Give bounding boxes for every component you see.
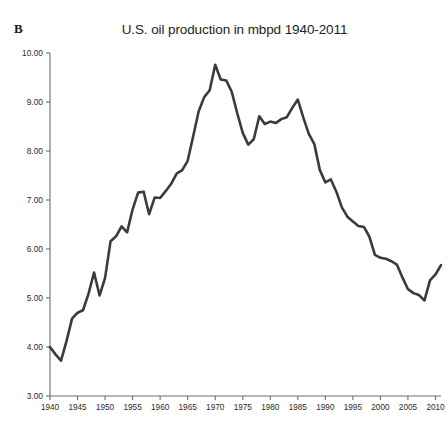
y-tick-label: 3.00: [27, 391, 44, 401]
oil-production-series: [50, 65, 441, 361]
y-axis: 3.004.005.006.007.008.009.0010.00: [22, 48, 50, 401]
line-chart-plot: 3.004.005.006.007.008.009.0010.00 194019…: [0, 0, 447, 433]
x-tick-label: 1950: [96, 403, 115, 412]
figure-panel-b: B U.S. oil production in mbpd 1940-2011 …: [0, 0, 447, 433]
x-tick-label: 1980: [261, 403, 280, 412]
x-tick-label: 2000: [371, 403, 390, 412]
y-tick-label: 6.00: [27, 244, 44, 254]
y-tick-label: 10.00: [22, 48, 43, 58]
y-tick-label: 4.00: [27, 342, 44, 352]
x-tick-label: 2010: [426, 403, 445, 412]
x-tick-label: 1955: [123, 403, 142, 412]
x-tick-label: 1970: [206, 403, 225, 412]
x-tick-label: 1995: [344, 403, 363, 412]
x-tick-label: 1965: [179, 403, 198, 412]
x-tick-label: 2005: [399, 403, 418, 412]
y-tick-label: 9.00: [27, 97, 44, 107]
x-tick-label: 1960: [151, 403, 170, 412]
x-tick-label: 1940: [41, 403, 60, 412]
x-tick-label: 1985: [289, 403, 308, 412]
x-tick-label: 1945: [68, 403, 87, 412]
y-tick-label: 5.00: [27, 293, 44, 303]
y-tick-label: 7.00: [27, 195, 44, 205]
y-tick-label: 8.00: [27, 146, 44, 156]
x-axis: 1940194519501955196019651970197519801985…: [41, 396, 445, 412]
x-tick-label: 1990: [316, 403, 335, 412]
x-tick-label: 1975: [234, 403, 253, 412]
